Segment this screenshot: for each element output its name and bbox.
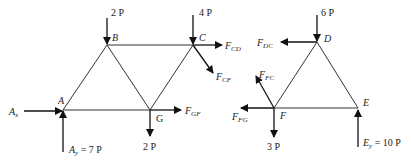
left-labels: 2 P 4 P B C A G FCD FCF FGF 2 P Ax Ay = … [8, 7, 241, 157]
reaction-label-Ay: Ay = 7 P [68, 144, 102, 157]
load-label-B: 2 P [111, 7, 125, 18]
force-label-FCD: FCD [224, 40, 241, 53]
force-label-FFC: FFC [258, 69, 274, 82]
member-GC [150, 45, 193, 110]
truss-diagram: 2 P 4 P B C A G FCD FCF FGF 2 P Ax Ay = … [0, 0, 411, 165]
member-DE [317, 42, 358, 108]
member-FD [274, 42, 317, 108]
node-label-F: F [279, 110, 287, 121]
right-truss-members [274, 42, 358, 108]
force-label-FCF: FCF [215, 71, 232, 84]
left-truss-members [63, 45, 193, 110]
load-label-G: 2 P [143, 141, 157, 152]
right-labels: 6 P D FDC FFC FFG F E 3 P Ey = 10 P [231, 7, 401, 152]
node-label-G: G [156, 113, 163, 124]
force-label-FGF: FGF [184, 105, 201, 118]
node-label-E: E [362, 97, 369, 108]
node-label-C: C [199, 32, 206, 43]
force-label-FFG: FFG [231, 111, 247, 124]
member-BG [107, 45, 150, 110]
force-label-FDC: FDC [256, 37, 273, 50]
load-label-D: 6 P [321, 7, 335, 18]
left-forces [24, 15, 222, 152]
node-label-A: A [57, 95, 65, 106]
reaction-label-Ax: Ax [8, 106, 19, 119]
member-AB [63, 45, 107, 110]
node-label-B: B [112, 32, 118, 43]
force-arrow-FCF [193, 45, 213, 73]
reaction-label-Ey: Ey = 10 P [362, 137, 401, 150]
right-forces [241, 15, 358, 147]
node-label-D: D [323, 33, 332, 44]
load-label-C: 4 P [199, 7, 213, 18]
load-label-F: 3 P [267, 141, 281, 152]
